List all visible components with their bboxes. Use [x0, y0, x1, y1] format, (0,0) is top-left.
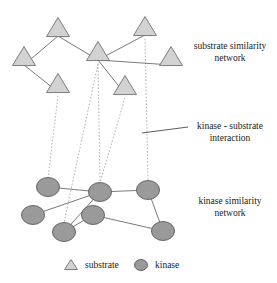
kinase-node-circle — [82, 206, 105, 225]
substrate-node-triangle — [160, 47, 183, 66]
annotation-kinase-substrate-interaction: kinase - substrate interaction — [186, 120, 274, 144]
kinase-node-circle — [53, 223, 76, 242]
diagram-canvas: substrate similarity network kinase - su… — [0, 0, 277, 283]
interaction-edge — [100, 98, 125, 183]
substrate-node-triangle — [134, 17, 157, 36]
legend-circle-icon — [135, 260, 148, 271]
annotation-substrate-similarity-network: substrate similarity network — [186, 40, 274, 64]
kinase-nodes-group — [22, 178, 175, 242]
legend-kinase-label: kinase — [155, 260, 179, 270]
kinase-node-circle — [152, 222, 175, 241]
legend-triangle-icon — [65, 260, 78, 270]
kinase-node-circle — [22, 206, 45, 225]
substrate-node-triangle — [114, 76, 137, 95]
annotation-line-2: network — [186, 52, 274, 64]
annotation-kinase-similarity-network: kinase similarity network — [186, 195, 274, 219]
kinase-node-circle — [137, 181, 160, 200]
substrate-node-triangle — [47, 74, 70, 93]
annotation-line-2: network — [186, 207, 274, 219]
substrate-node-triangle — [47, 18, 70, 37]
substrate-node-triangle — [13, 47, 36, 66]
legend-substrate-label: substrate — [85, 260, 119, 270]
annotation-line-1: kinase similarity — [186, 195, 274, 207]
interaction-edge — [48, 96, 58, 178]
leader-line — [142, 127, 188, 133]
substrate-node-triangle — [87, 42, 110, 61]
annotation-line-2: interaction — [186, 132, 274, 144]
substrate-nodes-group — [13, 17, 183, 95]
annotation-line-1: kinase - substrate — [186, 120, 274, 132]
kinase-node-circle — [37, 178, 60, 197]
interaction-edge — [98, 64, 100, 183]
kinase-node-circle — [89, 183, 112, 202]
interaction-edge — [145, 39, 148, 181]
annotation-line-1: substrate similarity — [186, 40, 274, 52]
interaction-leader-line — [142, 127, 188, 133]
